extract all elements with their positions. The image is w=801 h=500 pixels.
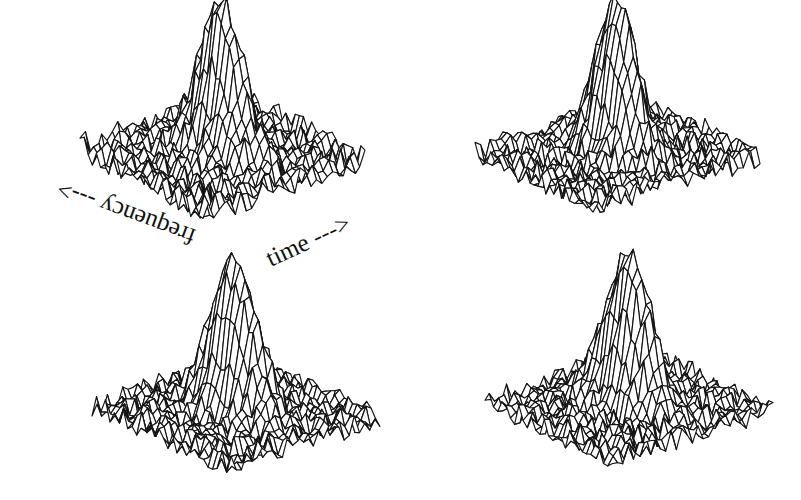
surface-plot-bottom-right — [0, 0, 801, 500]
figure: frequency ---> time ---> — [0, 0, 801, 500]
wireframe-mesh — [485, 249, 773, 466]
